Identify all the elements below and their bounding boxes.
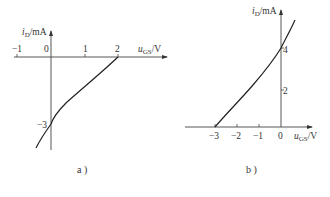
chart-a-xtick-label: 1 — [83, 44, 88, 54]
chart-b-y-label: iD/mA — [252, 6, 277, 18]
chart-a-y-label: iD/mA — [22, 27, 47, 39]
chart-b-xtick-label: −1 — [253, 131, 263, 141]
chart-a-x-label: uGS/V — [138, 44, 161, 56]
chart-b-ytick-label: 4 — [283, 45, 288, 55]
chart-b: −3 −2 −1 0 2 4 iD/mA uGS/V b ) — [185, 6, 317, 176]
chart-a-ytick-label: −3 — [37, 120, 47, 130]
chart-a-xtick-label: 0 — [44, 44, 49, 54]
chart-b-x-label: uGS/V — [294, 131, 317, 143]
chart-a-xtick-label: 2 — [115, 44, 120, 54]
figure: −1 0 1 2 −3 iD/mA uGS/V a ) −3 −2 −1 0 2… — [0, 0, 330, 197]
chart-a-curve — [36, 57, 118, 148]
chart-a-caption: a ) — [77, 164, 87, 176]
chart-b-xtick-label: −2 — [231, 131, 241, 141]
chart-b-curve — [215, 20, 295, 127]
chart-b-xtick-label: −3 — [209, 131, 219, 141]
chart-b-caption: b ) — [246, 164, 257, 176]
chart-b-ytick-label: 2 — [283, 86, 288, 96]
chart-b-xtick-label: 0 — [278, 131, 283, 141]
chart-a: −1 0 1 2 −3 iD/mA uGS/V a ) — [12, 27, 167, 176]
chart-a-xtick-label: −1 — [12, 44, 22, 54]
